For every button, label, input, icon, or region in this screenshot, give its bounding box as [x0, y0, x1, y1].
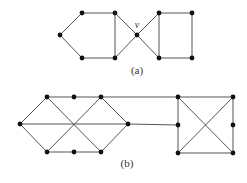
- graph-vertex: [80, 56, 85, 61]
- graph-a: v (a): [58, 11, 195, 77]
- graph-vertex: [135, 33, 140, 38]
- graph-vertex: [45, 150, 50, 155]
- graph-a-edges: [60, 13, 192, 58]
- graph-edge: [115, 13, 137, 35]
- graph-vertex: [126, 122, 131, 127]
- graph-vertex: [176, 95, 181, 100]
- graph-vertex: [190, 11, 195, 16]
- graph-vertex: [157, 11, 162, 16]
- graph-vertex: [80, 11, 85, 16]
- graph-vertex: [113, 56, 118, 61]
- graph-vertex: [176, 151, 181, 156]
- graph-vertex: [45, 95, 50, 100]
- graph-b: (b): [18, 95, 236, 170]
- graph-edge: [101, 124, 128, 152]
- vertex-label-v: v: [135, 19, 140, 30]
- graph-edge: [115, 35, 137, 58]
- caption-b: (b): [121, 157, 134, 170]
- graph-edge: [20, 124, 47, 152]
- graph-edge: [101, 97, 128, 124]
- graph-edge: [128, 124, 178, 125]
- graph-vertex: [231, 151, 236, 156]
- graph-edge: [137, 35, 159, 58]
- graph-diagram: v (a) (b): [0, 0, 247, 183]
- graph-edge: [137, 13, 159, 35]
- graph-edge: [20, 97, 47, 124]
- graph-vertex: [18, 122, 23, 127]
- graph-vertex: [190, 56, 195, 61]
- graph-a-nodes: [58, 11, 195, 61]
- graph-vertex: [231, 95, 236, 100]
- graph-vertex: [58, 33, 63, 38]
- caption-a: (a): [131, 64, 144, 77]
- graph-edge: [60, 13, 82, 35]
- graph-vertex: [157, 56, 162, 61]
- graph-vertex: [113, 11, 118, 16]
- graph-vertex: [99, 150, 104, 155]
- graph-vertex: [72, 95, 77, 100]
- graph-vertex: [176, 123, 181, 128]
- graph-vertex: [231, 123, 236, 128]
- graph-vertex: [72, 150, 77, 155]
- graph-edge: [60, 35, 82, 58]
- graph-vertex: [99, 95, 104, 100]
- graph-b-nodes: [18, 95, 236, 156]
